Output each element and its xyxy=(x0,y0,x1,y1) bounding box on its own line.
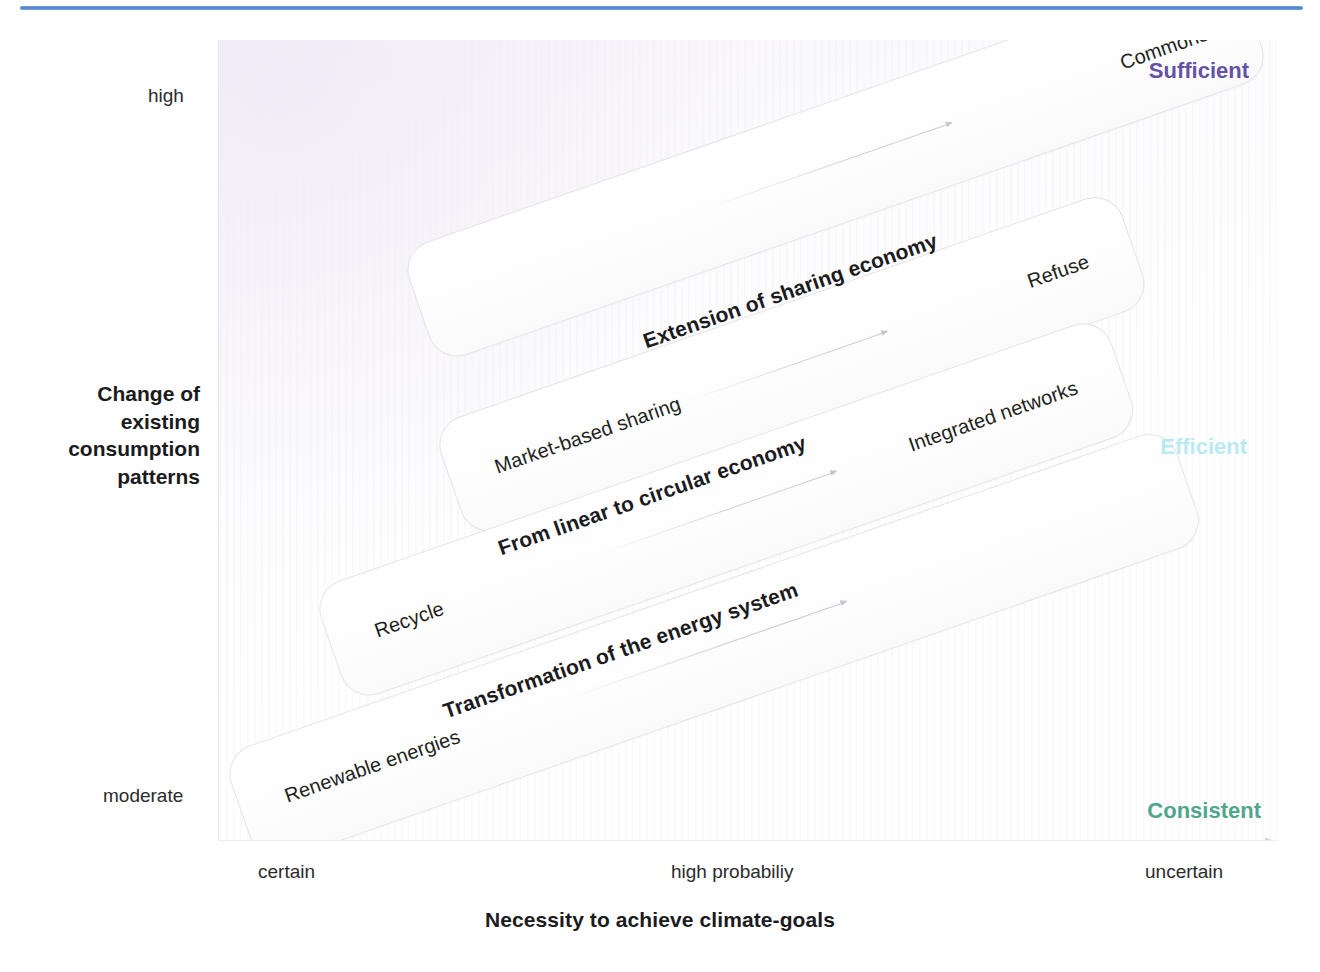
y-axis-title-line-2: existing xyxy=(0,408,200,436)
y-axis-title-line-1: Change of xyxy=(0,380,200,408)
band-3-left-label: Market-based sharing xyxy=(492,392,684,478)
band-4-arrow-icon xyxy=(702,122,952,210)
y-axis-title: Change of existing consumption patterns xyxy=(0,380,200,491)
band-1-left-label: Renewable energies xyxy=(282,725,463,807)
x-axis-tick-uncertain: uncertain xyxy=(1145,861,1223,883)
y-axis-title-line-4: patterns xyxy=(0,463,200,491)
y-axis-title-line-3: consumption xyxy=(0,435,200,463)
band-2-right-label: Integrated networks xyxy=(906,376,1081,456)
x-axis-tick-certain: certain xyxy=(258,861,315,883)
y-axis-tick-moderate: moderate xyxy=(103,785,183,807)
quadrant-label-sufficient: Sufficient xyxy=(1149,58,1249,84)
y-axis-tick-high: high xyxy=(148,85,184,107)
band-3-arrow-icon xyxy=(683,331,887,403)
chart-plot-area: Commons Market-based sharing Refuse Recy… xyxy=(218,40,1277,841)
x-axis-tick-high-probability: high probabiliy xyxy=(671,861,794,883)
x-axis-title: Necessity to achieve climate-goals xyxy=(0,908,1320,932)
quadrant-label-consistent: Consistent xyxy=(1147,798,1261,824)
band-2-left-label: Recycle xyxy=(372,597,447,642)
band-3-right-label: Refuse xyxy=(1024,250,1092,293)
header-rule xyxy=(20,6,1303,10)
x-axis-arrow-icon xyxy=(1187,840,1271,841)
quadrant-label-efficient: Efficient xyxy=(1160,434,1247,460)
